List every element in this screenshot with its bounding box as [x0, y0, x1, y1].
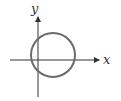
y-axis-label: y [30, 1, 39, 16]
coordinate-diagram: x y [0, 0, 121, 101]
x-axis-label: x [103, 52, 111, 67]
